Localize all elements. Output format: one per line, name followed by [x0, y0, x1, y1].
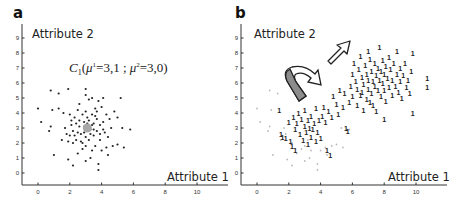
- data-point: [108, 118, 110, 120]
- panel-a: a 0123456789 0246810 Attribute 2 Attribu…: [13, 4, 229, 195]
- data-point: [88, 98, 90, 100]
- one-marker: 1: [395, 71, 399, 78]
- one-marker: 1: [382, 116, 386, 123]
- data-point: [85, 94, 87, 96]
- one-marker: 1: [330, 114, 334, 121]
- one-marker: 1: [277, 107, 281, 114]
- data-point: [270, 109, 272, 111]
- one-marker: 1: [401, 72, 405, 79]
- data-point: [61, 139, 63, 141]
- one-marker: 1: [311, 126, 315, 133]
- one-marker: 1: [331, 93, 335, 100]
- one-marker: 1: [300, 116, 304, 123]
- data-point: [112, 145, 114, 147]
- one-marker: 1: [398, 78, 402, 85]
- one-marker: 1: [400, 95, 404, 102]
- x-tick-label: 4: [100, 189, 104, 195]
- data-point: [86, 116, 88, 118]
- one-marker: 1: [350, 71, 354, 78]
- one-marker: 1: [301, 137, 305, 144]
- centroid-marker: [83, 124, 92, 133]
- data-point: [320, 150, 322, 152]
- data-point: [317, 163, 319, 165]
- one-marker: 1: [408, 90, 412, 97]
- one-marker: 1: [312, 120, 316, 127]
- one-marker: 1: [319, 135, 323, 142]
- one-marker: 1: [411, 110, 415, 117]
- data-point: [94, 145, 96, 147]
- data-point: [291, 165, 293, 167]
- data-point: [259, 121, 261, 123]
- data-point: [93, 134, 95, 136]
- x-ticks: 0246810: [255, 183, 420, 196]
- data-point: [256, 108, 258, 110]
- cluster-annotation: C1(μ1=3,1 ; μ2=3,0): [69, 60, 168, 77]
- x-tick-label: 6: [132, 189, 136, 195]
- x-ticks: 0246810: [36, 183, 201, 196]
- data-point: [310, 150, 312, 152]
- y-tick-label: 7: [16, 65, 20, 71]
- y-tick-label: 0: [16, 170, 20, 176]
- data-point: [331, 145, 333, 147]
- data-point: [102, 121, 104, 123]
- one-marker: 1: [368, 56, 372, 63]
- panel-a-letter: a: [13, 4, 23, 22]
- data-point: [97, 163, 99, 165]
- data-point: [123, 146, 125, 148]
- one-marker: 1: [384, 98, 388, 105]
- y-tick-label: 9: [235, 35, 239, 41]
- data-point: [73, 134, 75, 136]
- data-point: [96, 118, 98, 120]
- one-marker: 1: [392, 60, 396, 67]
- data-point: [269, 90, 271, 92]
- data-point: [70, 124, 72, 126]
- data-point: [309, 157, 311, 159]
- data-point: [81, 148, 83, 150]
- data-point: [116, 116, 118, 118]
- one-marker: 1: [403, 60, 407, 67]
- x-tick-label: 0: [255, 189, 259, 195]
- data-point: [97, 100, 99, 102]
- data-point: [342, 147, 344, 149]
- one-marker: 1: [338, 87, 342, 94]
- data-point: [104, 131, 106, 133]
- data-point: [80, 133, 82, 135]
- one-marker: 1: [409, 68, 413, 75]
- data-point: [89, 133, 91, 135]
- data-point: [102, 128, 104, 130]
- y-tick-label: 3: [235, 125, 239, 131]
- data-point: [116, 143, 118, 145]
- data-point: [105, 146, 107, 148]
- one-marker: 1: [384, 63, 388, 70]
- data-point: [51, 109, 53, 111]
- one-marker: 1: [358, 53, 362, 60]
- one-marker: 1: [363, 62, 367, 69]
- one-marker: 1: [323, 119, 327, 126]
- one-marker: 1: [366, 77, 370, 84]
- data-point: [269, 126, 271, 128]
- one-marker: 1: [314, 105, 318, 112]
- y-axis-title: Attribute 2: [32, 27, 94, 41]
- data-point: [91, 97, 93, 99]
- y-axis-title: Attribute 2: [254, 27, 316, 41]
- y-tick-label: 5: [16, 95, 20, 101]
- data-point: [91, 124, 93, 126]
- one-marker: 1: [322, 104, 326, 111]
- y-tick-label: 2: [16, 140, 20, 146]
- data-point: [67, 140, 69, 142]
- x-tick-label: 10: [413, 189, 420, 195]
- x-tick-label: 6: [351, 189, 355, 195]
- figure: a 0123456789 0246810 Attribute 2 Attribu…: [0, 0, 456, 207]
- one-marker: 1: [328, 152, 332, 159]
- one-marker: 1: [387, 54, 391, 61]
- one-marker: 1: [347, 99, 351, 106]
- y-tick-label: 7: [235, 65, 239, 71]
- one-marker: 1: [368, 99, 372, 106]
- data-point: [78, 125, 80, 127]
- data-point: [272, 154, 274, 156]
- one-marker: 1: [379, 93, 383, 100]
- data-point: [37, 107, 39, 109]
- panel-b: b 0123456789 0246810 Attribute 2 Attribu…: [235, 4, 450, 195]
- one-marker: 1: [355, 102, 359, 109]
- data-point: [50, 89, 52, 91]
